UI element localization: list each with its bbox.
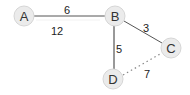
edge-label-a-b: 6 [64, 4, 70, 16]
node-d-label: D [108, 72, 117, 87]
edge-d-c-dotted [123, 53, 162, 75]
edge-label-b-c: 3 [143, 22, 149, 34]
node-a-label: A [20, 9, 29, 24]
edge-label-d-c: 7 [144, 68, 150, 80]
node-a: A [14, 6, 34, 26]
graph-diagram: 6 12 3 5 7 A B C D [0, 0, 190, 95]
node-c-label: C [166, 41, 175, 56]
node-b: B [105, 6, 125, 26]
annotation-12: 12 [51, 25, 63, 37]
edge-label-b-d: 5 [116, 43, 122, 55]
node-d: D [103, 69, 123, 89]
node-b-label: B [111, 9, 120, 24]
node-c: C [161, 38, 181, 58]
